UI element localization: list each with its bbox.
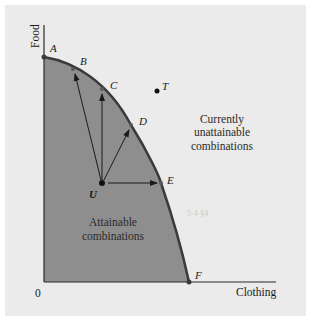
point-t-marker <box>155 89 160 94</box>
x-axis-label: Clothing <box>236 286 277 299</box>
point-d-marker <box>129 123 133 127</box>
attainable-label-line2: combinations <box>82 230 144 242</box>
point-f-marker <box>187 280 192 285</box>
point-a-marker <box>42 55 47 60</box>
point-u-label: U <box>89 188 98 200</box>
handwritten-mark: 5·4·§4 <box>187 209 208 218</box>
point-b-marker <box>71 67 75 71</box>
unattainable-label-line3: combinations <box>191 140 253 152</box>
point-e-label: E <box>166 174 174 186</box>
point-f-label: F <box>194 269 202 281</box>
unattainable-label-line1: Currently <box>200 113 244 126</box>
point-d-label: D <box>138 115 147 127</box>
unattainable-label-line2: unattainable <box>194 126 250 138</box>
point-b-label: B <box>80 55 87 67</box>
point-a-label: A <box>49 42 57 54</box>
point-t-label: T <box>162 80 169 92</box>
y-axis-label: Food <box>29 24 41 48</box>
ppf-diagram: A B C D E F U T Food Clothing 0 Attainab… <box>0 0 318 329</box>
attainable-label-line1: Attainable <box>89 216 137 228</box>
point-e-marker <box>159 181 163 185</box>
point-c-label: C <box>110 79 118 91</box>
origin-label: 0 <box>35 287 41 299</box>
point-c-marker <box>100 87 104 91</box>
point-u-marker <box>99 180 105 186</box>
